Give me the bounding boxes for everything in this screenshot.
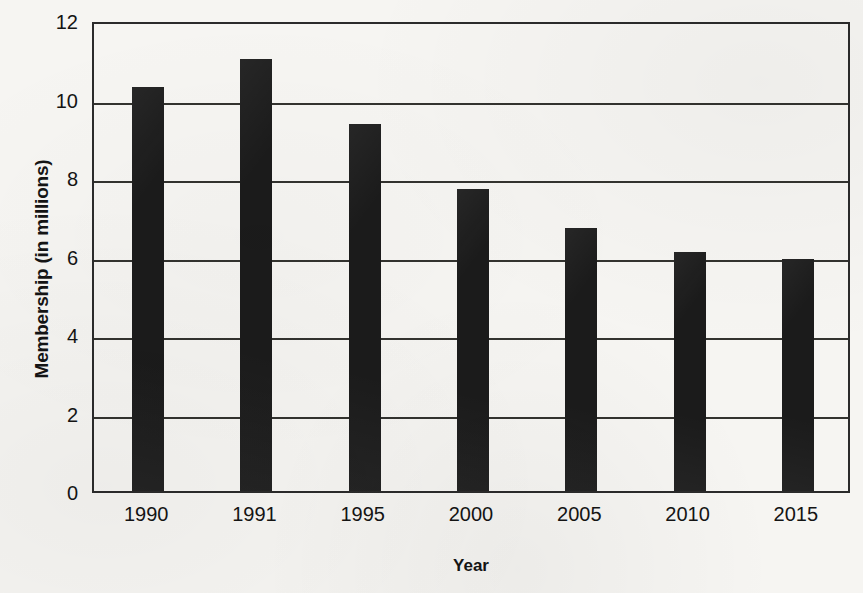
gridline-10 [94,103,848,105]
y-axis-tick-label: 6 [22,246,78,269]
x-axis-tick-label: 1995 [318,503,408,526]
x-axis-tick-label: 2010 [643,503,733,526]
x-axis-tick-label: 1991 [209,503,299,526]
bar-1995 [349,124,381,491]
y-axis-tick-label-group: 024681012 [22,22,78,493]
bar-1990 [132,87,164,491]
gridline-8 [94,181,848,183]
x-axis-tick-label: 2015 [751,503,841,526]
y-axis-tick-label: 2 [22,403,78,426]
x-axis-title: Year [92,556,850,576]
y-axis-tick-label: 0 [22,482,78,505]
bar-2005 [565,228,597,491]
bar-2010 [674,252,706,491]
bar-2000 [457,189,489,491]
y-axis-tick-label: 12 [22,11,78,34]
y-axis-tick-label: 4 [22,325,78,348]
bar-1991 [240,59,272,491]
y-axis-tick-label: 10 [22,89,78,112]
x-axis-tick-label: 2005 [534,503,624,526]
x-axis-tick-label-group: 1990199119952000200520102015 [92,503,850,537]
x-axis-tick-label: 2000 [426,503,516,526]
x-axis-tick-label: 1990 [101,503,191,526]
y-axis-tick-label: 8 [22,168,78,191]
plot-area [92,22,850,493]
bar-chart-figure: Membership (in millions) 024681012 19901… [0,0,863,593]
bar-2015 [782,259,814,491]
